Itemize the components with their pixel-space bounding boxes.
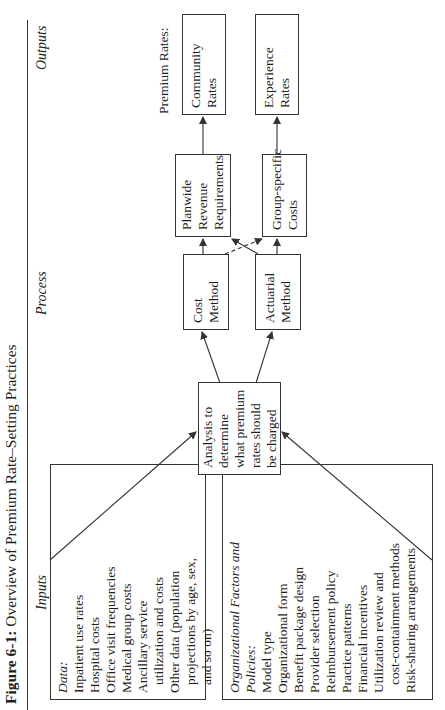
analysis-text: be charged	[264, 390, 280, 468]
planwide-text: Requirements	[211, 155, 227, 230]
org-item: Model type	[259, 471, 275, 693]
data-inputs-box: Data: Inpatient use rates Hospital costs…	[50, 464, 206, 700]
data-item: Hospital costs	[87, 471, 103, 693]
planwide-text: Planwide	[179, 155, 195, 230]
planwide-revenue-box: Planwide Revenue Requirements	[175, 154, 231, 237]
experience-rates-text: Rates	[277, 47, 293, 108]
org-heading: Policies:	[243, 471, 259, 693]
community-rates-text: Community	[188, 43, 204, 108]
cost-method-text: Method	[206, 281, 222, 323]
data-heading: Data:	[55, 471, 71, 693]
org-item: Utilization review and	[371, 471, 387, 693]
org-item: Practice patterns	[339, 471, 355, 693]
org-item: Reimbursement policy	[323, 471, 339, 693]
experience-rates-text: Experience	[261, 47, 277, 108]
arrow-analysis-to-cost	[202, 332, 220, 383]
arrow-analysis-to-actuarial	[256, 332, 272, 383]
actuarial-method-box: Actuarial Method	[255, 254, 301, 330]
column-header-inputs: Inputs	[34, 575, 50, 610]
actuarial-method-text: Actuarial	[262, 273, 278, 323]
org-item: Organizational form	[275, 471, 291, 693]
title-rule	[27, 20, 28, 710]
community-rates-text: Rates	[204, 43, 220, 108]
cost-method-box: Cost Method	[183, 254, 229, 330]
arrow-actuarial-to-planwide	[232, 239, 258, 254]
org-item: cost-containment methods	[387, 471, 403, 693]
planwide-text: Revenue	[195, 155, 211, 230]
org-item: Financial incentives	[355, 471, 371, 693]
data-item: utilization and costs	[151, 471, 167, 693]
group-specific-costs-box: Group-specific Costs	[262, 154, 307, 237]
cost-method-text: Cost	[190, 281, 206, 323]
diagram-canvas: Figure 6-1: Overview of Premium Rate–Set…	[0, 0, 445, 710]
arrow-cost-to-group-dashed	[225, 239, 262, 254]
data-item: Inpatient use rates	[71, 471, 87, 693]
data-item: Office visit frequencies	[103, 471, 119, 693]
data-item: Ancillary service	[135, 471, 151, 693]
analysis-text: what premium	[232, 390, 248, 468]
analysis-text: rates should	[248, 390, 264, 468]
column-header-outputs: Outputs	[34, 26, 50, 70]
actuarial-method-text: Method	[278, 273, 294, 323]
group-specific-text: Group-specific	[269, 149, 285, 230]
community-rates-box: Community Rates	[182, 14, 226, 115]
data-item: and so on)	[199, 471, 215, 693]
org-item: Benefit package design	[291, 471, 307, 693]
figure-title: Figure 6-1: Overview of Premium Rate–Set…	[2, 344, 20, 704]
premium-rates-label: Premium Rates:	[156, 27, 172, 114]
data-item: projections by age, sex,	[183, 471, 199, 693]
org-heading: Organizational Factors and	[227, 471, 243, 693]
org-item: Risk-sharing arrangements	[403, 471, 419, 693]
figure-label: Figure 6-1:	[2, 631, 19, 704]
analysis-text: Analysis to	[200, 390, 216, 468]
data-item: Medical group costs	[119, 471, 135, 693]
figure-title-text: Overview of Premium Rate–Setting Practic…	[2, 344, 19, 626]
data-item: Other data (population	[167, 471, 183, 693]
analysis-box: Analysis to determine what premium rates…	[198, 382, 281, 475]
org-factors-box: Organizational Factors and Policies: Mod…	[222, 464, 433, 700]
group-specific-text: Costs	[285, 149, 301, 230]
experience-rates-box: Experience Rates	[255, 14, 299, 115]
org-item: Provider selection	[307, 471, 323, 693]
analysis-text: determine	[216, 390, 232, 468]
column-header-process: Process	[34, 271, 50, 315]
